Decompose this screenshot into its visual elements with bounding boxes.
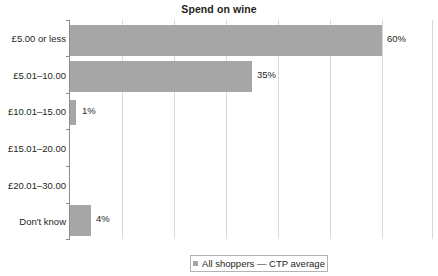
category-label-0: £5.00 or less (2, 33, 66, 44)
y-tick (66, 129, 70, 130)
y-tick (66, 56, 70, 57)
bar-value-0: 60% (387, 33, 406, 44)
chart-legend: All shoppers — CTP average (190, 255, 328, 272)
bar-5 (70, 205, 91, 236)
category-label-4: £20.01–30.00 (2, 180, 66, 191)
chart-title: Spend on wine (0, 3, 438, 15)
plot-area: 60% 35% 1% 4% (70, 20, 433, 239)
category-axis-labels: £5.00 or less £5.01–10.00 £10.01–15.00 £… (0, 20, 66, 239)
bar-0 (70, 25, 382, 56)
category-label-5: Don't know (2, 216, 66, 227)
category-label-2: £10.01–15.00 (2, 106, 66, 117)
category-label-3: £15.01–20.00 (2, 143, 66, 154)
y-tick (66, 93, 70, 94)
gridline (432, 20, 433, 239)
y-tick (66, 203, 70, 204)
y-tick (66, 166, 70, 167)
bar-value-2: 1% (82, 105, 96, 116)
y-tick (66, 20, 70, 21)
legend-swatch-icon (193, 261, 198, 266)
category-label-1: £5.01–10.00 (2, 70, 66, 81)
bar-chart: Spend on wine 60% 35% 1% 4% £5.00 or les… (0, 0, 438, 276)
bar-2 (70, 100, 76, 125)
legend-label-0: All shoppers — CTP average (202, 258, 325, 269)
bar-1 (70, 61, 252, 92)
gridline (382, 20, 383, 239)
bar-value-1: 35% (257, 69, 276, 80)
y-tick (66, 239, 70, 240)
bar-value-5: 4% (96, 213, 110, 224)
